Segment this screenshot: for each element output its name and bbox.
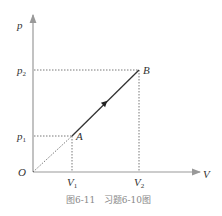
figure-caption: 图6-11 习题6-10图 bbox=[66, 195, 151, 205]
point-a-label: A bbox=[75, 130, 83, 142]
p1-label: p1 bbox=[16, 130, 27, 144]
v2-label: V2 bbox=[134, 176, 145, 190]
origin-extension-line bbox=[33, 136, 72, 172]
pv-diagram: p V O p2 p1 V1 V2 A B 图6-11 习题6-10图 bbox=[0, 0, 222, 216]
p2-label: p2 bbox=[16, 64, 27, 78]
point-b-label: B bbox=[143, 64, 150, 76]
v1-label: V1 bbox=[67, 176, 78, 190]
x-axis-label: V bbox=[203, 168, 211, 180]
origin-label: O bbox=[18, 166, 26, 178]
y-axis-label: p bbox=[16, 19, 23, 31]
